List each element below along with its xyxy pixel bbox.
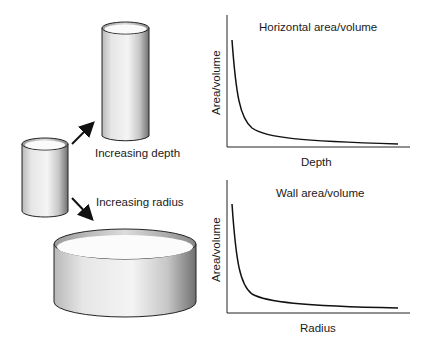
- y-axis-label: Area/volume: [210, 50, 222, 115]
- x-axis-label: Depth: [301, 156, 332, 168]
- y-axis-label: Area/volume: [210, 217, 222, 282]
- arrow-to-tall-cylinder: [72, 124, 92, 144]
- chart-title: Horizontal area/volume: [259, 21, 377, 33]
- curve-line: [232, 40, 398, 144]
- small-cylinder: [22, 138, 68, 217]
- curve-line: [232, 204, 398, 308]
- chart-wall-area-volume: Wall area/volume Radius Area/volume: [210, 180, 410, 334]
- diagram-canvas: Increasing depth Increasing radius Horiz…: [0, 0, 427, 345]
- arrow-to-wide-cylinder: [72, 198, 91, 218]
- label-increasing-depth: Increasing depth: [95, 147, 180, 159]
- chart-horizontal-area-volume: Horizontal area/volume Depth Area/volume: [210, 15, 410, 168]
- wide-cylinder: [54, 229, 196, 317]
- tall-cylinder: [102, 22, 149, 141]
- chart-title: Wall area/volume: [276, 187, 364, 199]
- label-increasing-radius: Increasing radius: [96, 196, 184, 208]
- x-axis-label: Radius: [300, 322, 336, 334]
